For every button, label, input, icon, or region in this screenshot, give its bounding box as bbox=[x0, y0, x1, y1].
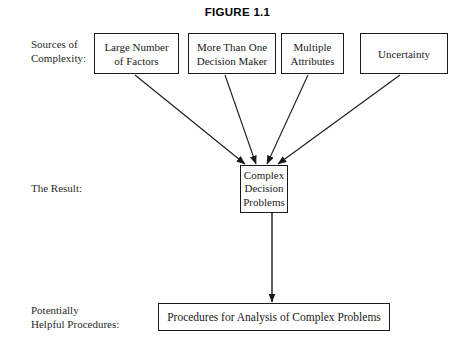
source-node-more-than-one-decision-maker: More Than One Decision Maker bbox=[188, 33, 276, 74]
arrow-decision-maker-to-result bbox=[225, 75, 256, 164]
arrow-factors-to-result bbox=[135, 75, 245, 164]
source-node-uncertainty: Uncertainty bbox=[360, 33, 448, 74]
arrow-attributes-to-result bbox=[267, 75, 308, 164]
procedures-node-analysis-of-complex-problems: Procedures for Analysis of Complex Probl… bbox=[158, 303, 390, 331]
source-node-multiple-attributes: Multiple Attributes bbox=[281, 33, 344, 74]
source-node-large-number-of-factors: Large Number of Factors bbox=[94, 33, 179, 74]
figure-container: FIGURE 1.1 Sources of Complexity: The Re… bbox=[0, 0, 475, 345]
arrow-uncertainty-to-result bbox=[278, 75, 400, 164]
row-label-the-result: The Result: bbox=[31, 182, 82, 196]
row-label-sources-of-complexity: Sources of Complexity: bbox=[31, 38, 86, 65]
row-label-potentially-helpful-procedures: Potentially Helpful Procedures: bbox=[31, 304, 119, 331]
result-node-complex-decision-problems: Complex Decision Problems bbox=[240, 165, 288, 213]
